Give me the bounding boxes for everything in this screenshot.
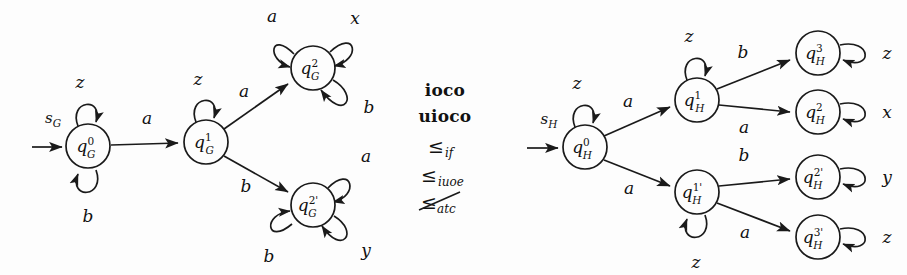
state-q2pg-base: q — [298, 195, 309, 215]
state-q2g-sub: G — [311, 70, 319, 82]
edge-label-q0g-q1g: a — [142, 108, 152, 128]
state-q2h: q2H — [796, 90, 840, 134]
self-loop-q1g-z: z — [193, 69, 216, 122]
state-q2pg-sub: G — [308, 207, 316, 219]
start-arrow-h: sH — [527, 110, 558, 148]
state-q0h-sup: 0 — [583, 136, 590, 148]
state-q2h-sup: 2 — [816, 101, 823, 113]
transition-q1h-q3h: b — [717, 42, 790, 89]
state-q1h-sup: 1 — [695, 89, 702, 101]
loop-label-q0g-z: z — [75, 72, 86, 92]
state-q0h-base: q — [572, 137, 583, 157]
state-q3h-base: q — [805, 43, 816, 63]
transition-q1g-q2g: a — [224, 81, 288, 129]
self-loop-q2g-x: x — [330, 8, 360, 66]
self-loop-q2g-a: a — [267, 6, 294, 67]
self-loop-q1ph-z: z — [685, 215, 706, 272]
self-loop-q0h-z: z — [572, 73, 595, 127]
figure-canvas: sG z b a z a b — [0, 0, 907, 275]
relation-leq-iuoe-symbol: ≤ — [421, 164, 437, 186]
loop-label-q2ph-y: y — [881, 167, 892, 187]
state-q1h-base: q — [684, 90, 695, 110]
loop-label-q2pg-y: y — [360, 240, 371, 260]
self-loop-q2g-b: b — [321, 80, 374, 117]
state-q1g-sup: 1 — [205, 131, 212, 143]
loop-label-q1ph-z: z — [691, 252, 702, 272]
automaton-h: sH z a a z z b — [527, 26, 893, 272]
state-q3ph-sub: H — [812, 239, 823, 251]
loop-label-q0g-b: b — [83, 206, 94, 226]
self-loop-q2pg-b: b — [264, 211, 292, 266]
state-q3h-sup: 3 — [816, 42, 823, 54]
relation-uioco: uioco — [419, 106, 472, 126]
loop-label-q2g-a: a — [267, 6, 277, 26]
state-q2g-base: q — [301, 58, 312, 78]
state-q1ph-sup: 1' — [693, 181, 703, 193]
state-q0g-sub: G — [87, 148, 95, 160]
relation-leq-if-symbol: ≤ — [428, 135, 444, 157]
state-q1ph-sub: H — [691, 194, 702, 206]
automata-figure: sG z b a z a b — [0, 0, 907, 275]
transition-q1g-q2pg: b — [224, 156, 288, 196]
loop-label-q2h-x: x — [882, 102, 892, 122]
loop-label-q3ph-z: z — [882, 227, 893, 247]
state-q1-prime-h: q1'H — [675, 170, 719, 214]
svg-text:sH: sH — [541, 110, 559, 130]
state-q2g: q2G — [291, 46, 335, 90]
state-q1g: q1G — [184, 120, 228, 164]
state-q2ph-base: q — [803, 167, 814, 187]
state-q3-prime-h: q3'H — [796, 215, 840, 259]
edge-label-q1ph-q2ph: b — [739, 145, 750, 165]
state-q0h: q0H — [563, 125, 607, 169]
state-q1g-sub: G — [206, 144, 214, 156]
edge-label-q1g-q2g: a — [239, 81, 249, 101]
state-q2pg-sup: 2' — [309, 194, 319, 206]
state-q3h: q3H — [796, 31, 840, 75]
edge-label-q1g-q2pg: b — [241, 176, 252, 196]
start-label-h-sub: H — [547, 118, 558, 130]
self-loop-q0g-b: b — [76, 170, 97, 226]
start-label-g-sub: G — [53, 117, 61, 129]
state-q2-prime-g: q2'G — [291, 183, 335, 227]
state-q3h-sub: H — [815, 55, 826, 67]
relation-leq-atc-sub: atc — [437, 202, 456, 216]
self-loop-q0g-z: z — [75, 72, 98, 126]
state-q2g-sup: 2 — [311, 57, 318, 69]
state-q1g-base: q — [194, 132, 205, 152]
self-loop-q3ph-z: z — [840, 227, 893, 247]
edge-label-q1h-q2h: a — [739, 117, 749, 137]
transition-q0h-q1ph: a — [604, 160, 670, 198]
loop-label-q2g-b: b — [364, 97, 375, 117]
state-q0g-sup: 0 — [87, 135, 94, 147]
loop-label-q1g-z: z — [193, 69, 204, 89]
relation-leq-iuoe-sub: iuoe — [438, 175, 464, 189]
edge-label-q1h-q3h: b — [738, 42, 749, 62]
transition-q1ph-q2ph: b — [719, 145, 790, 186]
self-loop-q1h-z: z — [684, 26, 707, 80]
self-loop-q2h-x: x — [840, 102, 892, 122]
self-loop-q2pg-y: y — [322, 216, 371, 260]
relation-leq-if-sub: if — [445, 146, 456, 160]
state-q2h-sub: H — [815, 114, 826, 126]
svg-text:sG: sG — [45, 109, 61, 129]
state-q0g-base: q — [77, 136, 88, 156]
self-loop-q2ph-y: y — [840, 167, 892, 187]
loop-label-q2pg-a: a — [361, 146, 371, 166]
loop-label-q0h-z: z — [572, 73, 583, 93]
state-q1h: q1H — [675, 78, 719, 122]
state-q3ph-sup: 3' — [814, 226, 824, 238]
relation-ioco: ioco — [425, 80, 465, 100]
start-arrow-g: sG — [32, 109, 62, 147]
edge-label-q0h-q1ph: a — [624, 178, 634, 198]
edge-label-q1ph-q3ph: a — [740, 222, 750, 242]
state-q3ph-base: q — [803, 227, 814, 247]
relations-list: ioco uioco ≤ if ≤ iuoe ≤ atc — [419, 80, 472, 216]
transition-q0g-q1g: a — [111, 108, 178, 145]
loop-label-q3h-z: z — [882, 43, 893, 63]
relation-leq-atc-crossed: ≤ atc — [419, 191, 460, 216]
state-q2h-base: q — [805, 102, 816, 122]
state-q1ph-base: q — [682, 182, 693, 202]
self-loop-q3h-z: z — [840, 43, 893, 63]
state-q1h-sub: H — [694, 102, 705, 114]
state-q0h-sub: H — [582, 149, 593, 161]
